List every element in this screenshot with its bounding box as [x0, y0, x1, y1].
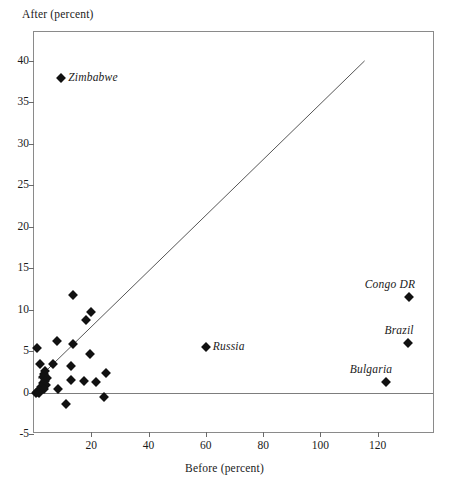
- point-label: Russia: [213, 341, 245, 353]
- y-axis-tick-label: 35: [18, 97, 30, 109]
- y-axis-tick-label: 25: [18, 180, 30, 192]
- x-axis-tick: [149, 432, 150, 437]
- zero-reference-line: [34, 393, 433, 394]
- x-axis-tick-label: 120: [369, 440, 386, 452]
- x-axis-tick: [378, 432, 379, 437]
- y-axis-tick-label: 5: [23, 345, 29, 357]
- plot-frame: -50510152025303540 20406080100120 Zimbab…: [33, 31, 434, 433]
- y-axis-tick-label: 40: [18, 55, 30, 67]
- x-axis-tick-label: 20: [86, 440, 98, 452]
- y-axis-tick-label: 20: [18, 221, 30, 233]
- y-axis-tick: [29, 185, 34, 186]
- y-axis-tick: [29, 310, 34, 311]
- y-axis-tick: [29, 268, 34, 269]
- y-axis-tick-label: -5: [19, 428, 29, 440]
- x-axis-tick: [320, 432, 321, 437]
- x-axis-tick: [263, 432, 264, 437]
- plot-area: -50510152025303540 20406080100120 Zimbab…: [34, 32, 433, 432]
- y-axis-tick: [29, 351, 34, 352]
- x-axis-tick-label: 80: [257, 440, 269, 452]
- y-axis-tick: [29, 227, 34, 228]
- x-axis-tick-label: 60: [200, 440, 212, 452]
- y-axis-tick: [29, 61, 34, 62]
- forty-five-degree-line: [38, 61, 364, 379]
- y-axis-tick-label: 10: [18, 304, 30, 316]
- x-axis-tick-label: 100: [312, 440, 329, 452]
- scatter-chart-figure: After (percent) -50510152025303540 20406…: [0, 0, 449, 487]
- y-axis-tick-label: 0: [23, 387, 29, 399]
- y-axis-tick: [29, 144, 34, 145]
- y-axis-tick-label: 30: [18, 138, 30, 150]
- y-axis-tick: [29, 434, 34, 435]
- x-axis-tick: [91, 432, 92, 437]
- x-axis-tick: [206, 432, 207, 437]
- point-label: Bulgaria: [350, 363, 393, 375]
- y-axis-title: After (percent): [22, 8, 94, 20]
- point-label: Brazil: [384, 324, 413, 336]
- y-axis-tick: [29, 102, 34, 103]
- y-axis-tick-label: 15: [18, 262, 30, 274]
- point-label: Zimbabwe: [68, 72, 118, 84]
- x-axis-tick-label: 40: [143, 440, 155, 452]
- x-axis-title: Before (percent): [0, 462, 449, 474]
- point-label: Congo DR: [365, 279, 415, 291]
